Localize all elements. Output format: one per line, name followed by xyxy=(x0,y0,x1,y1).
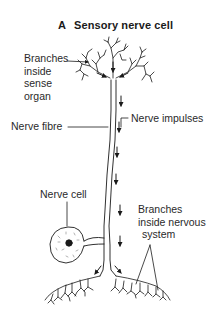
leader-lines xyxy=(67,61,158,290)
cell-body-stalk xyxy=(84,237,104,246)
nervous-system-branches xyxy=(45,276,170,304)
sense-organ-branches xyxy=(76,37,154,82)
nerve-cell-illustration xyxy=(0,0,216,317)
nerve-fibre xyxy=(100,80,116,276)
impulse-arrows xyxy=(95,62,128,274)
nerve-cell-body xyxy=(50,227,84,263)
